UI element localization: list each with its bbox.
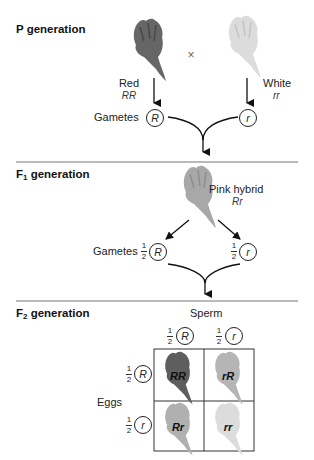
fraction-denominator: 2 xyxy=(232,253,236,261)
fraction-numerator: 1 xyxy=(217,327,221,335)
fraction-numerator: 1 xyxy=(142,242,146,250)
fraction-denominator: 2 xyxy=(127,376,131,384)
white-flower-icon xyxy=(229,16,261,78)
red-flower-icon xyxy=(134,19,166,81)
punnett-cell-Rr: Rr xyxy=(172,421,184,433)
fraction-denominator: 2 xyxy=(142,253,146,261)
f1-merge-curve-right xyxy=(205,264,240,283)
merge-curve-left xyxy=(168,117,203,140)
red-genotype-label: RR xyxy=(112,90,146,101)
fraction-denominator: 2 xyxy=(168,338,172,346)
sperm-allele-R: R xyxy=(176,327,194,345)
sperm-r-fraction: 12 xyxy=(216,327,222,346)
merge-curve-right xyxy=(203,117,238,140)
p-generation-title: P generation xyxy=(16,23,85,35)
fraction-numerator: 1 xyxy=(127,365,131,373)
eggs-label: Eggs xyxy=(97,396,122,408)
egg-allele-r: r xyxy=(134,416,152,434)
diagram-graphics: × xyxy=(0,0,314,460)
fraction-numerator: 1 xyxy=(232,242,236,250)
red-phenotype-label: Red xyxy=(112,77,146,89)
fraction-numerator: 1 xyxy=(168,327,172,335)
white-phenotype-label: White xyxy=(263,77,291,89)
f1-gamete-allele-R: R xyxy=(149,243,167,261)
sperm-R-fraction: 12 xyxy=(167,327,173,346)
cross-symbol: × xyxy=(187,48,194,62)
arrow-f1-to-gamete-r-lower xyxy=(218,220,240,239)
egg-allele-R: R xyxy=(134,365,152,383)
punnett-cell-RR: RR xyxy=(170,370,186,382)
f1-gamete-R-fraction: 12 xyxy=(141,242,147,261)
egg-r-fraction: 12 xyxy=(126,416,132,435)
sperm-allele-r: r xyxy=(225,327,243,345)
arrow-f1-to-gamete-r-upper xyxy=(166,220,189,239)
fraction-numerator: 1 xyxy=(127,416,131,424)
fraction-denominator: 2 xyxy=(127,427,131,435)
f2-generation-title: F2 generation xyxy=(16,307,89,321)
f1-merge-curve-left xyxy=(168,264,205,283)
pink-phenotype-label: Pink hybrid xyxy=(209,183,263,195)
white-genotype-label: rr xyxy=(273,90,280,101)
sperm-label: Sperm xyxy=(190,307,222,319)
punnett-cell-rr: rr xyxy=(224,421,233,433)
pink-flower-icon xyxy=(184,166,216,228)
p-gamete-allele-r: r xyxy=(239,109,257,127)
f1-gametes-label: Gametes xyxy=(93,245,138,257)
fraction-denominator: 2 xyxy=(217,338,221,346)
f2-title-prefix: F xyxy=(16,307,23,319)
f1-gamete-allele-r: r xyxy=(239,243,257,261)
f1-title-prefix: F xyxy=(16,168,23,180)
f1-title-suffix: generation xyxy=(27,168,89,180)
p-gametes-label: Gametes xyxy=(94,111,139,123)
pink-genotype-label: Rr xyxy=(232,196,243,207)
f1-generation-title: F1 generation xyxy=(16,168,89,182)
egg-R-fraction: 12 xyxy=(126,365,132,384)
f2-title-suffix: generation xyxy=(27,307,89,319)
f1-gamete-r-fraction: 12 xyxy=(231,242,237,261)
punnett-cell-rR: rR xyxy=(222,370,234,382)
p-gamete-allele-R: R xyxy=(146,109,164,127)
